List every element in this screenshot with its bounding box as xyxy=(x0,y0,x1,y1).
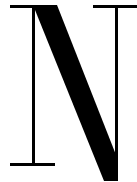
diagonal-stroke xyxy=(33,5,118,181)
left-stem xyxy=(32,5,35,166)
bottom-left-serif xyxy=(10,163,55,166)
letter-n-icon xyxy=(0,0,137,182)
